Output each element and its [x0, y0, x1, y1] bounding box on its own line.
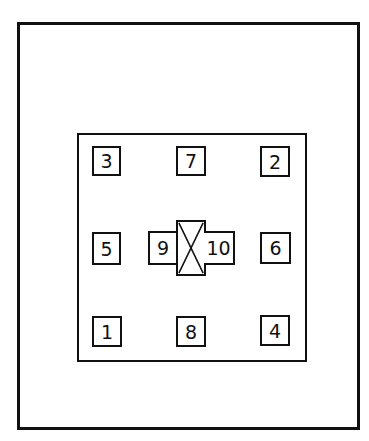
- cell-2: 2: [260, 146, 290, 177]
- cell-label: 7: [185, 150, 197, 172]
- cell-5: 5: [92, 232, 121, 265]
- cell-9: 9: [148, 231, 178, 265]
- cell-label: 1: [101, 321, 113, 343]
- cell-6: 6: [260, 232, 291, 264]
- cell-3: 3: [92, 146, 121, 176]
- cell-label: 5: [100, 238, 112, 260]
- cell-label: 6: [269, 237, 281, 259]
- cell-8: 8: [176, 316, 206, 347]
- center-crossed-box: [176, 220, 206, 276]
- cell-7: 7: [176, 146, 206, 176]
- cell-label: 2: [269, 151, 281, 173]
- cell-10: 10: [204, 231, 235, 265]
- cell-label: 9: [157, 237, 169, 259]
- cell-label: 8: [185, 321, 197, 343]
- cross-icon: [178, 222, 204, 274]
- cell-1: 1: [92, 316, 122, 347]
- cell-label: 3: [100, 150, 112, 172]
- cell-label: 10: [206, 237, 230, 259]
- cell-4: 4: [260, 315, 290, 346]
- cell-label: 4: [269, 320, 281, 342]
